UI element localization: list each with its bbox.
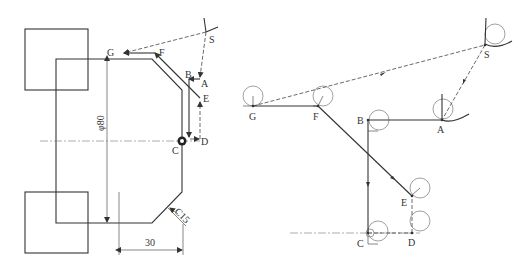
f-radius-tick	[318, 96, 323, 106]
point-a	[441, 119, 444, 122]
label-f-right: F	[313, 111, 319, 122]
left-figure: φ80 30 C15 S A B E D C F G	[25, 18, 218, 255]
point-c-marker-inner	[180, 139, 184, 143]
label-c-right: C	[357, 238, 364, 249]
label-a-right: A	[437, 124, 445, 135]
point-c	[367, 232, 370, 235]
point-g	[252, 105, 255, 108]
label-s-left: S	[209, 34, 215, 45]
label-f-left: F	[159, 47, 165, 58]
tool-edge-a	[442, 94, 469, 121]
right-figure: S A B C D E F G	[243, 18, 512, 249]
label-d-right: D	[408, 237, 415, 248]
tool-edge-s-2	[206, 27, 218, 32]
label-b-left: B	[185, 69, 192, 80]
tool-circle-a	[433, 99, 453, 119]
label-e-right: E	[401, 197, 407, 208]
label-a-left: A	[201, 78, 209, 89]
label-b-right: B	[357, 115, 364, 126]
c-corner	[368, 233, 378, 244]
path-s-to-g	[124, 32, 206, 53]
path-e-to-f	[155, 53, 200, 98]
point-b	[367, 119, 370, 122]
path-s-to-a	[200, 32, 206, 77]
label-d-left: D	[201, 136, 208, 147]
tool-circle-d	[410, 211, 430, 231]
label-g-right: G	[249, 111, 256, 122]
point-e	[411, 195, 414, 198]
path-b-c-arrow	[366, 182, 370, 187]
e-radius-tick	[412, 188, 420, 195]
path-g-to-s-right	[253, 45, 485, 106]
label-e-left: E	[203, 93, 209, 104]
tool-circle-s	[485, 24, 505, 44]
point-s	[484, 44, 487, 47]
tool-edge-s-1	[204, 18, 206, 32]
length-dim-label: 30	[145, 237, 155, 248]
point-d	[411, 232, 414, 235]
label-c-left: C	[172, 145, 179, 156]
path-s-a-arrow	[463, 79, 466, 84]
label-g-left: G	[107, 47, 114, 58]
label-s-right: S	[484, 49, 490, 60]
diameter-dim-label: φ80	[95, 115, 106, 131]
chamfer-label: C15	[173, 206, 193, 226]
tool-circle-c	[368, 221, 388, 241]
point-f	[317, 105, 320, 108]
path-e-f-arrow	[390, 176, 395, 180]
diagram-canvas: φ80 30 C15 S A B E D C F G	[0, 0, 532, 268]
